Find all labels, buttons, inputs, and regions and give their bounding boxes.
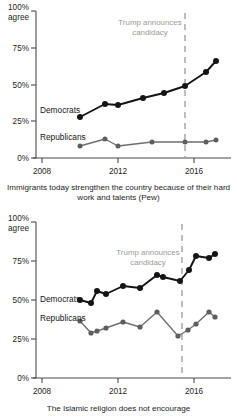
- x-tick-label-2008: 2008: [33, 387, 52, 396]
- y-tick-label-50: 50%: [13, 296, 29, 305]
- annotation-line-2: candidacy: [132, 28, 168, 37]
- x-tick-label-2008: 2008: [33, 167, 52, 176]
- figure-container: 100% agree 75% 50% 25% 0% 2008 2012 2016…: [0, 0, 237, 419]
- y-tick-label-100: 100%: [8, 214, 29, 223]
- chart-top-plot: 100% agree 75% 50% 25% 0% 2008 2012 2016…: [0, 0, 237, 180]
- chart-immigrants-strengthen-country: 100% agree 75% 50% 25% 0% 2008 2012 2016…: [0, 0, 237, 180]
- y-tick-label-50: 50%: [13, 81, 29, 90]
- series-label-democrats: Democrats: [40, 294, 80, 304]
- y-tick-label-0: 0%: [17, 374, 29, 383]
- y-axis-title: agree: [8, 224, 29, 233]
- y-tick-label-0: 0%: [17, 154, 29, 163]
- x-tick-label-2012: 2012: [109, 167, 128, 176]
- series-line-republicans: [80, 139, 216, 146]
- caption-chart-bottom: The Islamic religion does not encourage: [0, 404, 237, 414]
- series-points-democrats: [77, 58, 219, 120]
- x-tick-label-2016: 2016: [185, 167, 204, 176]
- series-line-democrats: [80, 61, 216, 117]
- series-points-republicans: [77, 309, 217, 338]
- x-tick-label-2016: 2016: [185, 387, 204, 396]
- y-tick-label-25: 25%: [13, 335, 29, 344]
- y-tick-label-25: 25%: [13, 117, 29, 126]
- caption-chart-top: Immigrants today strengthen the country …: [0, 183, 237, 204]
- annotation-line-1: Trump announces: [118, 18, 181, 27]
- chart-islamic-religion: 100% agree 75% 50% 25% 0% 2008 2012 2016…: [0, 212, 237, 397]
- annotation-line-2: candidacy: [130, 258, 166, 267]
- x-tick-label-2012: 2012: [109, 387, 128, 396]
- series-label-republicans: Republicans: [40, 313, 86, 323]
- y-tick-label-75: 75%: [13, 257, 29, 266]
- annotation-line-1: Trump announces: [116, 248, 179, 257]
- chart-bottom-plot: 100% agree 75% 50% 25% 0% 2008 2012 2016…: [0, 212, 237, 397]
- y-tick-label-75: 75%: [13, 44, 29, 53]
- series-label-democrats: Democrats: [40, 105, 80, 115]
- series-label-republicans: Republicans: [40, 132, 86, 142]
- y-axis-title: agree: [8, 13, 29, 22]
- y-tick-label-100: 100%: [8, 3, 29, 12]
